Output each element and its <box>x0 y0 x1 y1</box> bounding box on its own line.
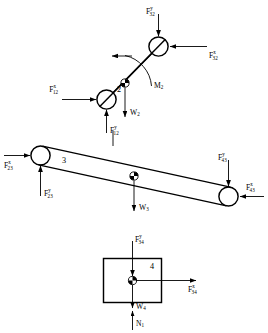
force-f43y-label: Fy43 <box>218 152 227 163</box>
link-3-center-of-gravity <box>130 172 138 180</box>
normal-force-n1-label: N1 <box>136 319 144 329</box>
link-3-right-joint <box>219 187 238 206</box>
link-3-left-joint <box>31 146 50 165</box>
link-2-number: 2 <box>117 85 121 94</box>
link-4-center-of-gravity <box>128 276 136 284</box>
force-f23y-label: Fy23 <box>44 188 53 199</box>
link-3-number: 3 <box>62 156 66 165</box>
force-f12x-label: Fx12 <box>49 84 58 95</box>
force-f43x-label: Fx43 <box>246 182 255 193</box>
force-f34y-label: Fy34 <box>135 234 144 245</box>
link-3-edge-top <box>43 146 231 187</box>
force-f32y-label: Fy32 <box>146 6 155 17</box>
link-3-edge-bottom <box>39 165 227 206</box>
free-body-diagram: 2 Fy32 Fx32 Fx12 Fy12 W2 M2 <box>0 0 268 333</box>
force-f34x-label: Fx34 <box>188 284 197 295</box>
diagram-canvas: 2 Fy32 Fx32 Fx12 Fy12 W2 M2 <box>0 0 268 333</box>
weight-w2-label: W2 <box>130 108 140 118</box>
weight-w3-label: W3 <box>139 203 149 213</box>
force-f23x-label: Fx23 <box>4 160 13 171</box>
link-2-group: 2 Fy32 Fx32 Fx12 Fy12 W2 M2 <box>49 6 218 136</box>
link-3-group: 3 Fx23 Fy23 Fy43 Fx43 W3 <box>4 131 264 212</box>
force-f12y-label: Fy12 <box>110 125 119 136</box>
link-4-number: 4 <box>150 262 154 271</box>
link-2-body <box>97 37 168 109</box>
moment-m2-label: M2 <box>154 81 164 91</box>
link-4-group: 4 Fy34 Fx34 W4 N1 <box>104 234 198 330</box>
link-2-center-of-gravity <box>121 79 129 87</box>
force-f32x-label: Fx32 <box>209 50 218 61</box>
